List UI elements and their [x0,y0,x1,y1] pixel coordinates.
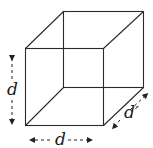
width-label: d [55,129,66,148]
cube-diagram: d d d′ [0,0,153,148]
height-label: d [7,79,18,99]
depth-label: d′ [124,102,139,122]
